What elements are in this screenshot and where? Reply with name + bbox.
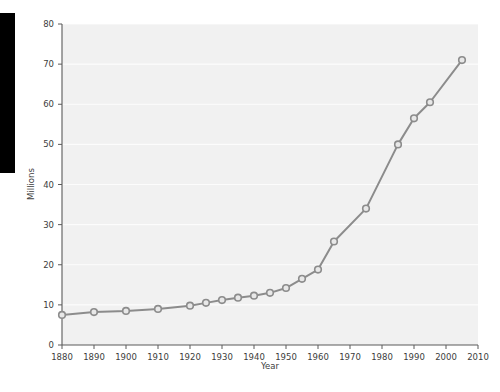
data-point-marker bbox=[235, 294, 242, 301]
y-axis-title: Millions bbox=[26, 168, 36, 200]
x-tick-label: 1980 bbox=[371, 352, 393, 362]
data-point-marker bbox=[363, 205, 370, 212]
data-point-marker bbox=[267, 290, 274, 297]
x-tick-label: 2010 bbox=[467, 352, 489, 362]
x-tick-label: 1890 bbox=[83, 352, 105, 362]
data-point-marker bbox=[219, 297, 226, 304]
x-tick-label: 2000 bbox=[435, 352, 457, 362]
data-point-marker bbox=[411, 115, 418, 122]
data-point-marker bbox=[251, 292, 258, 299]
data-point-marker bbox=[331, 238, 338, 245]
x-axis-group: 1880189019001910192019301940195019601970… bbox=[51, 345, 489, 362]
x-tick-label: 1960 bbox=[307, 352, 329, 362]
data-point-marker bbox=[315, 266, 322, 273]
y-tick-label: 30 bbox=[43, 220, 54, 230]
y-tick-label: 40 bbox=[43, 180, 54, 190]
y-tick-label: 50 bbox=[43, 139, 54, 149]
data-point-marker bbox=[91, 309, 98, 316]
data-point-marker bbox=[459, 57, 466, 64]
data-point-marker bbox=[283, 285, 290, 292]
chart-screenshot: 01020304050607080 1880189019001910192019… bbox=[0, 0, 500, 392]
x-tick-label: 1920 bbox=[179, 352, 201, 362]
x-tick-label: 1970 bbox=[339, 352, 361, 362]
line-chart-figure: 01020304050607080 1880189019001910192019… bbox=[0, 0, 500, 392]
x-tick-label: 1900 bbox=[115, 352, 137, 362]
y-axis-group: 01020304050607080 bbox=[43, 19, 62, 350]
data-point-marker bbox=[59, 312, 66, 319]
y-tick-label: 60 bbox=[43, 99, 54, 109]
x-tick-label: 1910 bbox=[147, 352, 169, 362]
x-axis-title: Year bbox=[260, 361, 280, 371]
y-tick-label: 80 bbox=[43, 19, 54, 29]
x-tick-label: 1880 bbox=[51, 352, 73, 362]
data-point-marker bbox=[203, 300, 210, 307]
y-tick-label: 0 bbox=[49, 340, 54, 350]
x-tick-label: 1990 bbox=[403, 352, 425, 362]
black-occlusion-bar bbox=[0, 13, 15, 173]
data-point-marker bbox=[123, 308, 130, 315]
x-tick-label: 1930 bbox=[211, 352, 233, 362]
y-tick-label: 20 bbox=[43, 260, 54, 270]
y-tick-label: 10 bbox=[43, 300, 54, 310]
data-point-marker bbox=[187, 302, 194, 309]
data-point-marker bbox=[155, 306, 162, 313]
data-point-marker bbox=[299, 275, 306, 282]
y-tick-label: 70 bbox=[43, 59, 54, 69]
data-point-marker bbox=[427, 99, 434, 106]
data-point-marker bbox=[395, 141, 402, 148]
chart-canvas: 01020304050607080 1880189019001910192019… bbox=[0, 0, 500, 392]
